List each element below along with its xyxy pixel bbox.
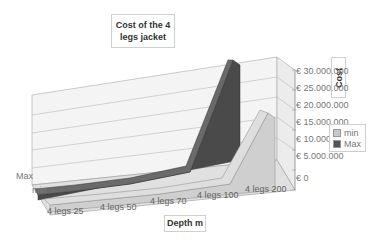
legend-label-min: min	[344, 128, 359, 138]
legend-label-max: Max	[344, 139, 361, 149]
x-tick: 4 legs 200	[245, 184, 287, 194]
title-line-2: legs jacket	[112, 31, 174, 43]
x-tick: 4 legs 100	[197, 190, 239, 200]
y-tick: € 30.000.000	[296, 66, 349, 76]
legend-swatch-min	[333, 129, 341, 137]
title-line-1: Cost of the 4	[112, 19, 174, 31]
chart-title: Cost of the 4 legs jacket	[111, 14, 175, 48]
legend-item-max: Max	[333, 138, 362, 149]
y-tick: € 20.000.000	[296, 100, 349, 110]
x-axis-title: Depth m	[164, 215, 206, 232]
legend-item-min: min	[333, 127, 362, 138]
y-tick: € 25.000.000	[296, 83, 349, 93]
x-tick: 4 legs 50	[100, 202, 137, 212]
y-tick: € 5.000.000	[296, 151, 344, 161]
legend: min Max	[329, 124, 366, 152]
legend-swatch-max	[333, 140, 341, 148]
x-tick: 4 legs 70	[150, 196, 187, 206]
series-axis-label-min: min	[32, 185, 47, 195]
y-tick: € 0	[296, 173, 309, 183]
series-axis-label-max: Max	[16, 171, 33, 181]
x-tick: 4 legs 25	[47, 206, 84, 216]
